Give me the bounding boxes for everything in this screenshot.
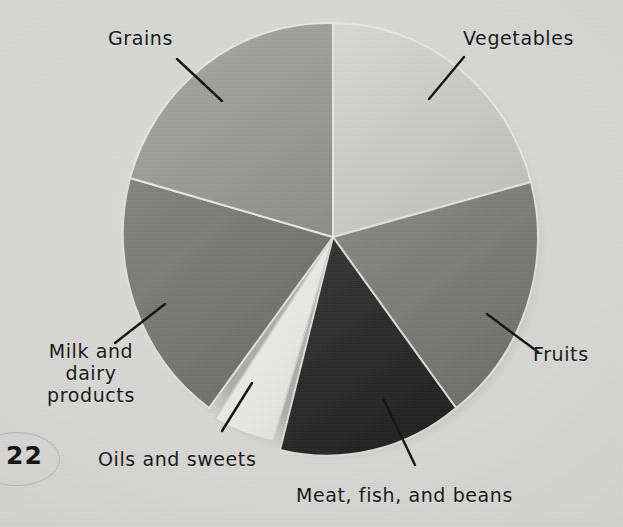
- slice-label-milk-and-dairy: Milk and dairy products: [36, 340, 146, 406]
- slice-label-meat-fish-beans: Meat, fish, and beans: [296, 484, 513, 506]
- slice-label-milk-line-3: products: [36, 384, 146, 406]
- page-number: 22: [6, 441, 43, 470]
- slice-label-vegetables: Vegetables: [463, 27, 574, 49]
- pie-chart: [0, 0, 623, 527]
- page-canvas: Grains Vegetables Fruits Meat, fish, and…: [0, 0, 623, 527]
- slice-label-fruits: Fruits: [533, 343, 589, 365]
- slice-label-grains: Grains: [108, 27, 173, 49]
- slice-label-oils-and-sweets: Oils and sweets: [98, 448, 256, 470]
- slice-label-milk-line-1: Milk and: [36, 340, 146, 362]
- slice-label-milk-line-2: dairy: [36, 362, 146, 384]
